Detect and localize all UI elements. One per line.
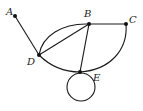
label-c: C: [129, 14, 137, 25]
vertex-a: [13, 14, 17, 18]
label-e: E: [92, 72, 101, 83]
label-b: B: [83, 8, 91, 19]
edge-e-c-curved: [80, 24, 126, 72]
label-a: A: [5, 6, 13, 17]
vertex-e: [78, 70, 82, 74]
label-d: D: [26, 56, 35, 67]
vertex-b: [87, 22, 91, 26]
graph-svg: A B C D E: [0, 0, 143, 111]
edge-d-e-curved: [39, 55, 80, 72]
vertex-c: [124, 22, 128, 26]
edge-a-d: [15, 16, 39, 55]
graph-diagram: A B C D E: [0, 0, 143, 111]
edge-e-loop: [67, 73, 95, 101]
edge-b-e: [80, 24, 89, 72]
vertex-d: [37, 53, 41, 57]
